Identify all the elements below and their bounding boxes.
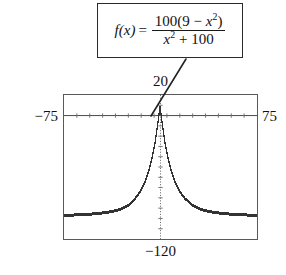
formula-lhs: f(x) bbox=[115, 23, 136, 38]
graphing-calculator-figure: f(x) = 100(9 − x2) x2 + 100 20 −75 75 −1… bbox=[0, 0, 286, 275]
window-ymax-label: 20 bbox=[63, 73, 258, 90]
window-xmin-label: −75 bbox=[6, 108, 58, 125]
window-ymin-label: −120 bbox=[63, 243, 258, 260]
formula-denominator: x2 + 100 bbox=[161, 31, 217, 48]
formula-fraction: 100(9 − x2) x2 + 100 bbox=[152, 13, 226, 48]
graph-plot-area bbox=[64, 95, 257, 239]
formula-numerator: 100(9 − x2) bbox=[152, 13, 226, 30]
window-xmax-label: 75 bbox=[262, 108, 277, 125]
formula-equals: = bbox=[138, 23, 146, 38]
numerator-suffix: ) bbox=[217, 13, 222, 29]
denominator-suffix: + 100 bbox=[175, 31, 213, 47]
numerator-variable: x bbox=[206, 13, 213, 29]
function-formula: f(x) = 100(9 − x2) x2 + 100 bbox=[115, 13, 226, 48]
graph-window-frame bbox=[63, 94, 258, 240]
function-formula-box: f(x) = 100(9 − x2) x2 + 100 bbox=[97, 3, 243, 58]
numerator-prefix: 100(9 − bbox=[155, 13, 206, 29]
